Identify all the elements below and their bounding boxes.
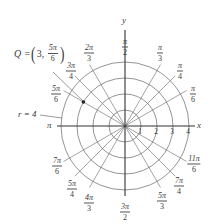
pi-label: π [47, 121, 52, 130]
angle-label-330deg: 11π6 [187, 155, 200, 174]
polar-grid-diagram: y x 1 2 3 4 π r = 4 Q = ( 3, 5π 6 ) π2π3… [0, 0, 218, 224]
ray-30deg [125, 91, 187, 127]
angle-numerator: 5π [51, 85, 61, 95]
angle-numerator: 5π [157, 192, 167, 202]
point-q-marker [82, 100, 86, 104]
radial-tick-1: 1 [138, 128, 142, 136]
angle-denominator: 4 [69, 72, 73, 81]
angle-denominator: 6 [191, 95, 195, 104]
angle-denominator: 2 [123, 48, 127, 57]
ray-60deg [125, 65, 161, 127]
angle-numerator: π [122, 38, 128, 48]
angle-numerator: 4π [84, 194, 94, 204]
angle-numerator: 5π [67, 180, 77, 190]
angle-denominator: 4 [70, 190, 74, 199]
angle-label-90deg: π2 [122, 38, 128, 57]
angle-numerator: 2π [84, 44, 94, 54]
angle-label-240deg: 4π3 [84, 194, 94, 213]
ray-315deg [125, 126, 175, 176]
angle-numerator: π [157, 44, 163, 54]
r4-annotation: r = 4 [18, 110, 37, 119]
angle-numerator: π [177, 62, 183, 72]
angle-label-120deg: 2π3 [84, 44, 94, 63]
q-theta-den: 6 [51, 54, 55, 63]
angle-denominator: 4 [177, 187, 181, 196]
angle-denominator: 6 [54, 95, 58, 104]
angle-label-225deg: 5π4 [67, 180, 77, 199]
ray-150deg [64, 91, 126, 127]
angle-label-300deg: 5π3 [157, 192, 167, 211]
angle-label-45deg: π4 [177, 62, 183, 81]
angle-numerator: 3π [120, 203, 130, 213]
angle-denominator: 6 [55, 167, 59, 176]
angle-numerator: 3π [66, 62, 76, 72]
angle-label-210deg: 7π6 [52, 157, 62, 176]
q-label-prefix: Q = [14, 48, 30, 59]
q-comma: , [42, 48, 47, 59]
ray-225deg [75, 126, 125, 176]
q-open-paren: ( [31, 45, 35, 63]
ray-45deg [125, 76, 175, 126]
angle-label-30deg: π6 [190, 85, 196, 104]
angle-denominator: 4 [178, 72, 182, 81]
angle-label-135deg: 3π4 [66, 62, 76, 81]
radial-tick-2: 2 [154, 128, 158, 136]
angle-numerator: 11π [187, 155, 200, 165]
angle-label-270deg: 3π2 [120, 203, 130, 222]
angle-label-60deg: π3 [157, 44, 163, 63]
radial-tick-4: 4 [186, 128, 190, 136]
angle-denominator: 3 [160, 202, 164, 211]
angle-denominator: 3 [158, 54, 162, 63]
ray-120deg [90, 65, 126, 127]
angle-numerator: 7π [174, 177, 184, 187]
angle-denominator: 2 [123, 213, 127, 222]
q-close-paren: ) [60, 45, 64, 63]
q-theta: 5π 6 [48, 44, 58, 63]
y-axis-label: y [122, 16, 126, 25]
x-axis-label: x [197, 121, 201, 130]
angle-denominator: 3 [87, 204, 91, 213]
angle-numerator: π [190, 85, 196, 95]
ray-210deg [64, 126, 126, 162]
radial-tick-3: 3 [170, 128, 174, 136]
point-q-label: Q = ( 3, 5π 6 ) [14, 44, 65, 63]
angle-denominator: 6 [192, 165, 196, 174]
angle-numerator: 7π [52, 157, 62, 167]
angle-label-150deg: 5π6 [51, 85, 61, 104]
ray-240deg [90, 126, 126, 188]
r4-annotation-leader [40, 115, 62, 118]
angle-denominator: 3 [87, 54, 91, 63]
angle-label-315deg: 7π4 [174, 177, 184, 196]
q-theta-num: 5π [48, 44, 58, 54]
